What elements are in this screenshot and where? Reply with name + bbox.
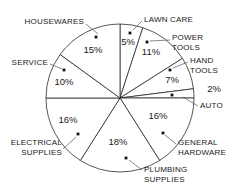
slice-label-line: ELECTRICAL [11, 138, 63, 147]
slice-label-plumbing-supplies: PLUMBINGSUPPLIES [144, 165, 187, 184]
leader-dot-electrical-supplies [77, 133, 80, 136]
leader-dot-service [63, 69, 66, 72]
leader-dot-lawn-care [129, 32, 132, 35]
slice-percent-plumbing-supplies: 18% [108, 136, 128, 147]
slice-label-line: POWER [172, 33, 203, 42]
slice-percent-electrical-supplies: 16% [58, 114, 78, 125]
leader-dot-housewares [95, 36, 98, 39]
slice-label-lawn-care: LAWN CARE [144, 15, 193, 24]
slice-label-line: LAWN CARE [144, 15, 193, 24]
slice-label-line: HARDWARE [178, 148, 226, 157]
leader-dot-hand-tools [169, 69, 172, 72]
leader-dot-general-hardware [162, 132, 165, 135]
slice-label-auto: AUTO [200, 101, 223, 110]
slice-percent-lawn-care: 5% [121, 36, 135, 47]
slice-label-line: SERVICE [12, 58, 48, 67]
slice-percent-housewares: 15% [83, 44, 103, 55]
slice-label-line: TOOLS [172, 43, 200, 52]
pie-chart-figure: 5%11%7%2%16%18%16%10%15% LAWN CAREPOWERT… [0, 0, 237, 194]
leader-dot-plumbing-supplies [125, 157, 128, 160]
slice-label-line: HAND [190, 56, 213, 65]
slice-label-line: PLUMBING [144, 165, 187, 174]
slice-percent-power-tools: 11% [142, 46, 161, 57]
slice-label-line: AUTO [200, 101, 223, 110]
slice-label-line: TOOLS [190, 66, 218, 75]
slice-label-housewares: HOUSEWARES [25, 17, 85, 26]
slice-label-line: SUPPLIES [144, 175, 185, 184]
slice-percent-auto: 2% [207, 83, 221, 94]
slice-label-power-tools: POWERTOOLS [172, 33, 203, 52]
slice-label-service: SERVICE [12, 58, 48, 67]
slice-label-general-hardware: GENERALHARDWARE [178, 138, 226, 157]
slice-percent-service: 10% [54, 76, 74, 87]
slice-label-hand-tools: HANDTOOLS [190, 56, 218, 75]
leader-dot-power-tools [146, 41, 149, 44]
pie-chart-svg: 5%11%7%2%16%18%16%10%15% LAWN CAREPOWERT… [0, 0, 237, 194]
slice-percent-hand-tools: 7% [165, 74, 179, 85]
slice-label-line: HOUSEWARES [25, 17, 85, 26]
slice-label-electrical-supplies: ELECTRICALSUPPLIES [11, 138, 63, 157]
slice-label-line: SUPPLIES [21, 148, 62, 157]
slice-label-line: GENERAL [178, 138, 218, 147]
leader-dot-auto [171, 94, 174, 97]
slice-percent-general-hardware: 16% [148, 110, 168, 121]
